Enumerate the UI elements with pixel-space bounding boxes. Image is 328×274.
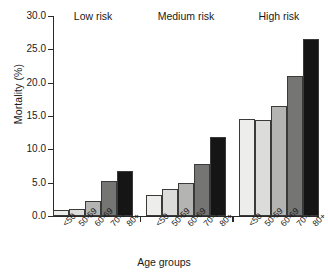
y-axis-tick-label: 20.0 — [16, 78, 46, 88]
y-axis-tick-mark — [48, 49, 53, 50]
group-header-low-risk: Low risk — [53, 10, 133, 22]
x-axis-group-separator-tick — [140, 217, 141, 222]
y-axis-tick-labels: 0.05.010.015.020.025.030.0 — [16, 0, 46, 274]
y-axis-tick-label: 15.0 — [16, 111, 46, 121]
y-axis-tick-mark — [48, 83, 53, 84]
y-axis-tick-mark — [48, 216, 53, 217]
y-axis-tick-mark — [48, 183, 53, 184]
y-axis-tick-mark — [48, 116, 53, 117]
x-axis-title: Age groups — [0, 256, 328, 268]
y-axis-tick-label: 10.0 — [16, 144, 46, 154]
x-axis-group-separator-tick — [232, 217, 233, 222]
y-axis-tick-mark — [48, 149, 53, 150]
bar — [271, 106, 287, 216]
bar — [146, 195, 162, 216]
bar — [287, 76, 303, 216]
plot-area — [53, 16, 319, 216]
y-axis-tick-label: 30.0 — [16, 11, 46, 21]
y-axis-tick-label: 0.0 — [16, 211, 46, 221]
bar — [210, 137, 226, 216]
y-axis-tick-label: 25.0 — [16, 44, 46, 54]
y-axis-tick-label: 5.0 — [16, 178, 46, 188]
mortality-by-age-and-risk-bar-chart: Mortality (%) 0.05.010.015.020.025.030.0… — [0, 0, 328, 274]
group-header-medium-risk: Medium risk — [146, 10, 226, 22]
bar — [303, 39, 319, 216]
group-header-high-risk: High risk — [239, 10, 319, 22]
bar — [255, 120, 271, 216]
bar — [239, 119, 255, 216]
